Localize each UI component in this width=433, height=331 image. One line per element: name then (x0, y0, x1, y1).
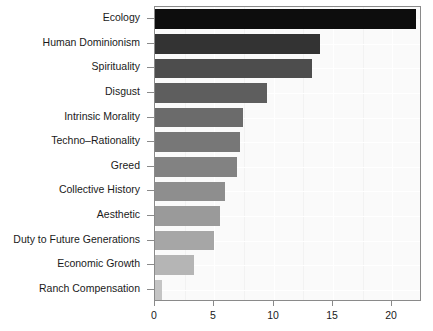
category-tick (147, 43, 154, 44)
category-tick (147, 215, 154, 216)
x-axis-tick (391, 301, 392, 306)
x-axis-tick-label: 0 (151, 310, 157, 321)
bar (155, 34, 320, 54)
bar (155, 206, 220, 226)
category-label: Disgust (105, 86, 140, 97)
category-axis-labels: EcologyHuman DominionismSpiritualityDisg… (0, 0, 140, 331)
category-tick (147, 166, 154, 167)
category-label: Ranch Compensation (39, 283, 140, 294)
category-tick (147, 67, 154, 68)
gridline-vertical-minor (363, 7, 364, 300)
category-label: Duty to Future Generations (13, 234, 140, 245)
category-tick (147, 264, 154, 265)
category-tick (147, 141, 154, 142)
bar (155, 255, 194, 275)
category-label: Intrinsic Morality (64, 111, 140, 122)
category-label: Economic Growth (57, 258, 140, 269)
x-axis-tick (154, 301, 155, 306)
category-label: Human Dominionism (43, 37, 140, 48)
bar (155, 182, 225, 202)
bar (155, 9, 416, 29)
category-label: Aesthetic (97, 209, 140, 220)
category-tick (147, 240, 154, 241)
x-axis-tick-label: 10 (267, 310, 279, 321)
category-tick (147, 92, 154, 93)
gridline-horizontal (155, 265, 420, 266)
gridline-horizontal (155, 290, 420, 291)
bar-chart: EcologyHuman DominionismSpiritualityDisg… (0, 0, 433, 331)
x-axis-tick-label: 15 (326, 310, 338, 321)
category-label: Greed (111, 160, 140, 171)
bar (155, 132, 240, 152)
category-tick (147, 289, 154, 290)
category-label: Spirituality (92, 61, 140, 72)
category-label: Techno–Rationality (51, 135, 140, 146)
gridline-vertical (392, 7, 393, 300)
bar (155, 157, 237, 177)
category-tick (147, 190, 154, 191)
x-axis-tick (213, 301, 214, 306)
category-label: Ecology (103, 12, 140, 23)
category-tick (147, 117, 154, 118)
x-axis-tick (332, 301, 333, 306)
x-axis-tick (273, 301, 274, 306)
category-label: Collective History (59, 184, 140, 195)
bar (155, 108, 243, 128)
plot-area (154, 6, 421, 301)
bar (155, 231, 214, 251)
bar (155, 83, 267, 103)
bar (155, 280, 162, 300)
category-tick (147, 18, 154, 19)
x-axis-tick-label: 20 (385, 310, 397, 321)
x-axis-tick-label: 5 (210, 310, 216, 321)
gridline-vertical (333, 7, 334, 300)
bar (155, 59, 312, 79)
